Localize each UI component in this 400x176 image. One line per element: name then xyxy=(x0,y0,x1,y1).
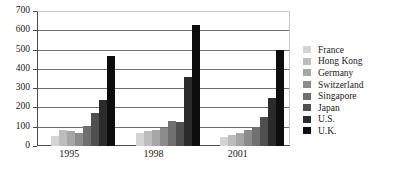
y-axis-tick-label: 500 xyxy=(16,45,30,54)
bar xyxy=(75,133,83,146)
legend-item-label: Singapore xyxy=(318,91,357,101)
legend-swatch-icon xyxy=(303,46,311,53)
y-axis-tick-label: 400 xyxy=(16,64,30,73)
y-axis-tick-label: 100 xyxy=(16,122,30,131)
bar xyxy=(152,130,160,146)
bar xyxy=(268,98,276,146)
legend-item[interactable]: U.K. xyxy=(303,125,398,137)
legend-item-label: U.S. xyxy=(318,114,335,124)
bar xyxy=(83,126,91,146)
bar xyxy=(276,50,284,146)
bar xyxy=(176,122,184,146)
y-axis-tick-label: 300 xyxy=(16,83,30,92)
legend-item[interactable]: France xyxy=(303,44,398,56)
bar xyxy=(91,113,99,146)
bar xyxy=(136,133,144,147)
chart-container: 0100200300400500600700 199519982001 Fran… xyxy=(0,0,400,176)
legend-swatch-icon xyxy=(303,81,311,88)
legend-item-label: Germany xyxy=(318,68,353,78)
bar xyxy=(260,117,268,146)
legend-item-label: U.K. xyxy=(318,126,336,136)
legend-item[interactable]: Singapore xyxy=(303,90,398,102)
x-axis-tick-label: 1998 xyxy=(144,148,164,159)
legend-item[interactable]: Hong Kong xyxy=(303,56,398,68)
x-axis: 199519982001 xyxy=(37,148,290,168)
legend-item[interactable]: Germany xyxy=(303,67,398,79)
legend-item-label: Hong Kong xyxy=(318,56,363,66)
bar xyxy=(160,128,168,146)
bar xyxy=(99,100,107,146)
bar xyxy=(244,130,252,146)
legend-swatch-icon xyxy=(303,104,311,111)
bar xyxy=(144,131,152,146)
chart-legend: FranceHong KongGermanySwitzerlandSingapo… xyxy=(303,44,398,137)
y-axis: 0100200300400500600700 xyxy=(0,0,37,176)
legend-item-label: France xyxy=(318,45,344,55)
y-axis-tick-label: 600 xyxy=(16,25,30,34)
legend-item[interactable]: Switzerland xyxy=(303,79,398,91)
legend-item-label: Japan xyxy=(318,103,340,113)
legend-swatch-icon xyxy=(303,127,311,134)
bar xyxy=(252,127,260,146)
bar-group xyxy=(136,11,200,146)
bar xyxy=(228,135,236,146)
bar xyxy=(220,137,228,146)
bar-group xyxy=(220,11,284,146)
legend-swatch-icon xyxy=(303,116,311,123)
y-axis-tick-label: 700 xyxy=(16,6,30,15)
y-axis-tick-label: 0 xyxy=(25,141,30,150)
bar xyxy=(192,25,200,147)
legend-item-label: Switzerland xyxy=(318,80,363,90)
legend-item[interactable]: U.S. xyxy=(303,114,398,126)
legend-swatch-icon xyxy=(303,93,311,100)
bar-group xyxy=(51,11,115,146)
x-axis-tick-label: 2001 xyxy=(228,148,248,159)
bar xyxy=(107,56,115,146)
x-axis-tick-label: 1995 xyxy=(59,148,79,159)
bar xyxy=(59,130,67,146)
bar xyxy=(51,136,59,146)
legend-item[interactable]: Japan xyxy=(303,102,398,114)
bar xyxy=(236,133,244,146)
y-axis-tick-label: 200 xyxy=(16,102,30,111)
legend-swatch-icon xyxy=(303,58,311,65)
bar xyxy=(67,131,75,146)
bars-layer xyxy=(38,11,290,146)
bar xyxy=(168,121,176,146)
legend-swatch-icon xyxy=(303,69,311,76)
y-axis-tick-mark xyxy=(33,146,37,147)
bar xyxy=(184,77,192,146)
